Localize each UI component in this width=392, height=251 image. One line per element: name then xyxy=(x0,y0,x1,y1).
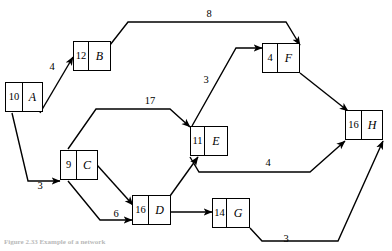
node-E[interactable]: 11E xyxy=(190,126,228,156)
edge-weight-B-F: 8 xyxy=(206,9,211,20)
node-A-label: A xyxy=(23,83,42,111)
edge-A-B xyxy=(40,57,73,113)
node-D-label: D xyxy=(149,196,170,224)
network-diagram: 10A12B9C16D11E4F14G16H 483176343 Figure … xyxy=(0,0,392,251)
figure-caption: Figure 2.33 Example of a network xyxy=(4,238,388,246)
node-F-cost: 4 xyxy=(263,44,278,72)
node-H-label: H xyxy=(362,111,382,139)
edge-C-D xyxy=(97,165,133,205)
node-H-cost: 16 xyxy=(346,111,362,139)
edge-F-H xyxy=(300,73,348,111)
edge-weight-A-B: 4 xyxy=(49,62,54,73)
node-C[interactable]: 9C xyxy=(60,150,98,180)
node-A-cost: 10 xyxy=(6,83,23,111)
node-E-cost: 11 xyxy=(191,127,205,155)
node-F-label: F xyxy=(278,44,299,72)
node-G-label: G xyxy=(227,199,249,227)
node-D[interactable]: 16D xyxy=(132,195,171,225)
node-B-label: B xyxy=(89,42,110,70)
node-F[interactable]: 4F xyxy=(262,43,300,73)
node-C-label: C xyxy=(77,151,97,179)
edge-weight-E-H: 4 xyxy=(265,158,270,169)
node-D-cost: 16 xyxy=(133,196,149,224)
node-G-cost: 14 xyxy=(213,199,227,227)
edge-weight-C-E: 17 xyxy=(145,96,156,107)
edge-E-F xyxy=(192,48,262,126)
edge-B-F xyxy=(110,22,300,45)
edge-C-E xyxy=(68,109,190,149)
node-G[interactable]: 14G xyxy=(212,198,250,228)
edge-A-C xyxy=(12,113,60,181)
node-B-cost: 12 xyxy=(74,42,89,70)
node-E-label: E xyxy=(205,127,227,155)
node-C-cost: 9 xyxy=(61,151,77,179)
node-B[interactable]: 12B xyxy=(73,41,111,71)
edge-weight-A-C: 3 xyxy=(37,181,42,192)
edge-weight-C-D2: 6 xyxy=(113,209,118,220)
node-A[interactable]: 10A xyxy=(5,82,43,112)
edge-C-D2 xyxy=(68,181,132,220)
edge-weight-E-F: 3 xyxy=(203,75,208,86)
node-H[interactable]: 16H xyxy=(345,110,383,140)
